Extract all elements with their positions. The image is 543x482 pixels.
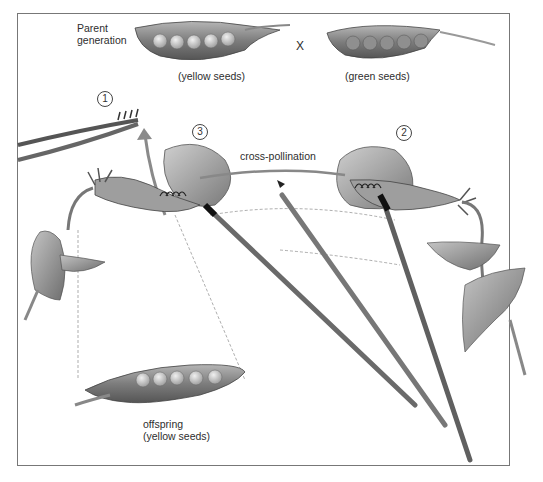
illustration (0, 0, 543, 482)
offspring-pod (75, 365, 245, 405)
parent-pod-yellow (135, 21, 290, 59)
cross-pollination-label: cross-pollination (240, 150, 316, 162)
step-1-marker: 1 (97, 91, 113, 107)
parent-right-caption: (green seeds) (345, 70, 410, 82)
paint-brushes (205, 180, 470, 460)
forceps-stamens (18, 109, 138, 160)
step-3-marker: 3 (192, 124, 208, 140)
offspring-label: offspring (143, 418, 183, 430)
cross-symbol: X (296, 40, 304, 52)
offspring-caption: (yellow seeds) (143, 430, 210, 442)
leaves-left (25, 231, 105, 320)
leaves-right (427, 242, 525, 375)
parent-generation-label: Parent generation (77, 22, 147, 46)
parent-pod-green (327, 26, 495, 59)
parent-left-caption: (yellow seeds) (178, 70, 245, 82)
arrow-head-icon (137, 128, 152, 140)
step-2-marker: 2 (396, 125, 412, 141)
